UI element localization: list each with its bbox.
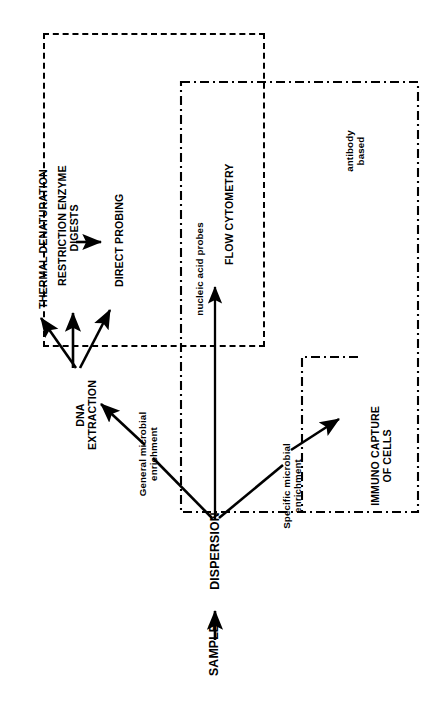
node-label-dispersion: DISPERSION xyxy=(209,510,225,593)
edge-label-general-microbial-enrichment: General microbial enrichment xyxy=(138,408,162,500)
node-label-flow-cytometry: FLOW CYTOMETRY xyxy=(224,173,238,265)
node-label-sample: SAMPLE xyxy=(208,624,224,676)
node-label-immuno-capture-of-cells: IMMUNO CAPTURE OF CELLS xyxy=(370,402,396,510)
edge-label-specific-microbial-enrichment: Specific microbial enrichment xyxy=(282,440,306,532)
node-label-direct-probing: DIRECT PROBING xyxy=(114,197,128,287)
group-label-antibody-based: antibody based xyxy=(345,120,369,182)
group-label-nucleic-acid-probes: nucleic acid probes xyxy=(195,219,209,319)
diagram-connectors xyxy=(0,0,438,707)
flow-diagram-canvas: SAMPLE DISPERSION DNA EXTRACTION THERMAL… xyxy=(0,0,438,707)
node-label-dna-extraction: DNA EXTRACTION xyxy=(75,377,101,453)
node-label-thermal-denaturation: THERMAL DENATURATION xyxy=(38,165,52,313)
node-label-restriction-enzyme-digests: RESTRICTION ENZYME DIGESTS xyxy=(57,170,83,286)
